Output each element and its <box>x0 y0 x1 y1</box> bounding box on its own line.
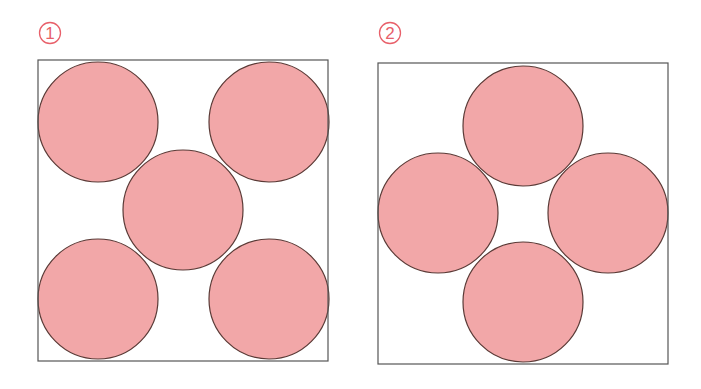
circle-3 <box>123 150 243 270</box>
diagram-canvas: 12 <box>0 0 701 389</box>
circle-1 <box>38 62 158 182</box>
circle-4 <box>38 239 158 359</box>
circle-2 <box>378 153 498 273</box>
circle-5 <box>209 239 329 359</box>
circle-2 <box>209 62 329 182</box>
figure-1: 1 <box>38 23 329 362</box>
circled-number-label: 2 <box>380 23 401 44</box>
label-number: 2 <box>385 24 394 43</box>
label-number: 1 <box>45 24 54 43</box>
figure-2: 2 <box>378 23 668 365</box>
circle-3 <box>548 153 668 273</box>
circled-number-label: 1 <box>40 23 61 44</box>
circle-1 <box>463 66 583 186</box>
circle-4 <box>463 242 583 362</box>
